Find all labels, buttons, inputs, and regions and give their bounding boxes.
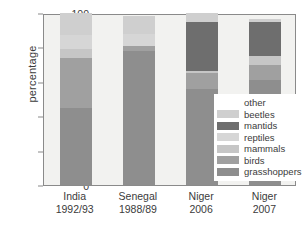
- x-tick-label-place: Senegal: [119, 190, 158, 202]
- bar-2: [123, 13, 155, 185]
- legend-item-other: other: [217, 97, 304, 109]
- legend-swatch-grasshoppers: [217, 168, 239, 176]
- bar-segment-mantids: [186, 22, 218, 72]
- legend-label: other: [244, 97, 266, 108]
- x-tick-label-place: Niger: [189, 190, 214, 202]
- bar-segment-mammals: [186, 71, 218, 73]
- x-tick-label-place: India: [63, 190, 86, 202]
- bar-segment-mammals: [249, 56, 281, 65]
- bar-segment-mammals: [60, 49, 92, 58]
- bar-segment-birds: [186, 73, 218, 88]
- legend-swatch-mammals: [217, 145, 239, 153]
- bar-1: [60, 13, 92, 185]
- legend-label: birds: [244, 155, 265, 166]
- bar-segment-beetles: [186, 13, 218, 22]
- legend-swatch-mantids: [217, 122, 239, 130]
- bar-segment-beetles: [249, 19, 281, 22]
- bar-segment-beetles: [123, 16, 155, 33]
- x-tick-label-place: Niger: [252, 190, 277, 202]
- legend-item-grasshoppers: grasshoppers: [217, 166, 304, 178]
- legend-swatch-reptiles: [217, 133, 239, 141]
- bar-segment-grasshoppers: [123, 51, 155, 185]
- bar-segment-birds: [249, 65, 281, 80]
- legend-swatch-other: [217, 99, 239, 107]
- bar-segment-mantids: [249, 22, 281, 56]
- x-tick-label-4: Niger2007: [226, 190, 302, 215]
- bar-segment-beetles: [60, 13, 92, 35]
- legend-swatch-birds: [217, 156, 239, 164]
- legend-label: mantids: [244, 120, 277, 131]
- legend-label: grasshoppers: [244, 166, 302, 177]
- legend-item-birds: birds: [217, 155, 304, 167]
- legend-item-mantids: mantids: [217, 120, 304, 132]
- legend-item-mammals: mammals: [217, 143, 304, 155]
- bar-segment-birds: [60, 58, 92, 108]
- bar-segment-birds: [123, 46, 155, 51]
- legend: otherbeetlesmantidsreptilesmammalsbirdsg…: [214, 94, 306, 181]
- legend-label: mammals: [244, 143, 285, 154]
- legend-item-reptiles: reptiles: [217, 132, 304, 144]
- legend-swatch-beetles: [217, 110, 239, 118]
- legend-item-beetles: beetles: [217, 109, 304, 121]
- legend-label: reptiles: [244, 132, 275, 143]
- stacked-bar-chart: percentage 020406080100 India1992/93Sene…: [0, 0, 307, 229]
- bar-segment-reptiles: [123, 34, 155, 46]
- bar-segment-reptiles: [60, 35, 92, 49]
- x-tick-label-year: 2007: [226, 203, 302, 216]
- legend-label: beetles: [244, 109, 275, 120]
- bar-segment-grasshoppers: [60, 108, 92, 185]
